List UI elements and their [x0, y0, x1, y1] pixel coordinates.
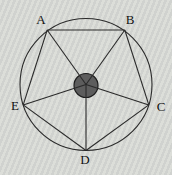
radius-E: [23, 85, 86, 105]
chord-DE: [23, 105, 86, 151]
chord-EA: [23, 30, 47, 105]
radius-B: [86, 30, 125, 85]
vertex-label-C: C: [157, 99, 166, 114]
vertex-label-A: A: [36, 12, 46, 27]
radius-A: [47, 30, 86, 85]
radius-C: [86, 85, 149, 105]
vertex-label-B: B: [126, 12, 135, 27]
chord-BC: [125, 30, 149, 105]
pentagon-circle-svg: ABCDE: [0, 0, 172, 175]
chord-CD: [86, 105, 149, 151]
diagram-canvas: ABCDE: [0, 0, 172, 175]
vertex-label-D: D: [80, 152, 89, 167]
vertex-label-E: E: [11, 98, 19, 113]
